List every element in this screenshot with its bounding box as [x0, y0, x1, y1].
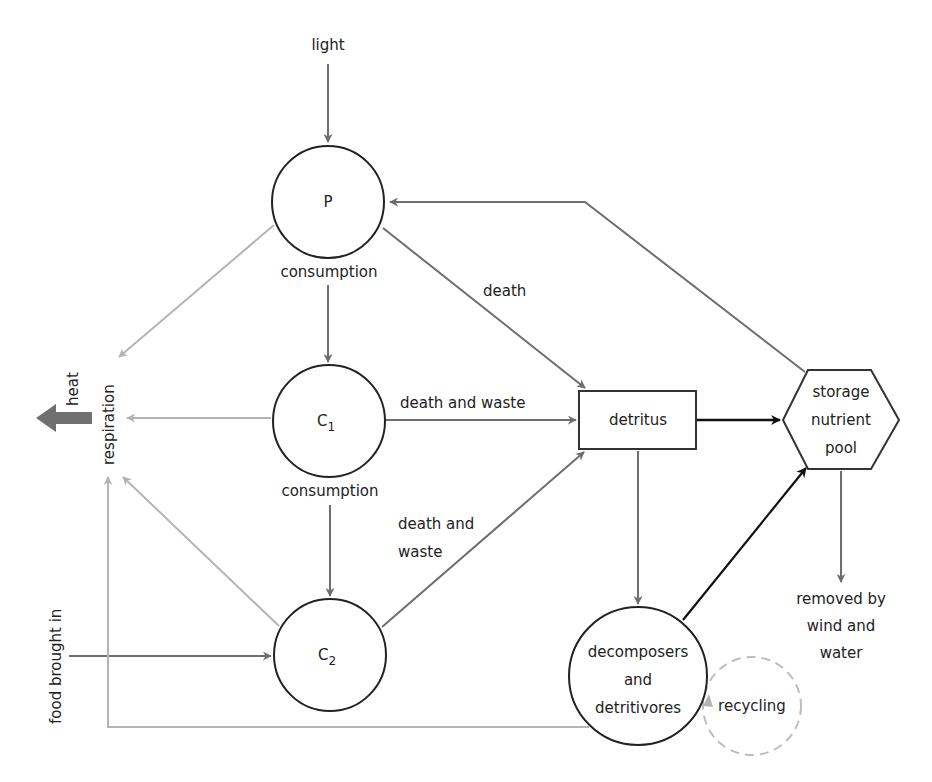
- consumption-label-1: consumption: [280, 263, 377, 281]
- death-and-waste-c1-label: death and waste: [400, 394, 525, 412]
- storage-label-line1: storage: [813, 383, 870, 401]
- arrow-c2-death-waste-to-detritus: [382, 452, 584, 627]
- detritus-label: detritus: [609, 411, 667, 429]
- decomposers-label-line3: detritivores: [595, 699, 681, 717]
- producer-label: P: [323, 193, 332, 211]
- arrow-producer-respiration: [119, 225, 274, 357]
- food-brought-in-label: food brought in: [47, 609, 65, 724]
- respiration-label: respiration: [100, 384, 118, 465]
- arrow-producer-death-to-detritus: [383, 228, 585, 388]
- ecosystem-flow-diagram: P C1 C2 detritus storage nutrient pool d…: [0, 0, 932, 782]
- consumption-label-2: consumption: [281, 482, 378, 500]
- storage-label-line2: nutrient: [811, 411, 871, 429]
- arrow-c2-respiration: [123, 477, 279, 626]
- removed-label-line1: removed by: [796, 590, 886, 608]
- death-and-waste-c2-label-line2: waste: [398, 543, 442, 561]
- recycling-label: recycling: [718, 697, 786, 715]
- death-and-waste-c2-label-line1: death and: [398, 515, 474, 533]
- storage-label-line3: pool: [825, 439, 857, 457]
- decomposers-label-line2: and: [624, 671, 652, 689]
- heat-label: heat: [64, 372, 82, 406]
- decomposers-label-line1: decomposers: [588, 643, 689, 661]
- removed-label-line2: wind and: [807, 617, 875, 635]
- light-label: light: [311, 36, 344, 54]
- heat-arrow-icon: [36, 404, 92, 432]
- arrow-decomposers-to-storage: [683, 468, 806, 620]
- removed-label-line3: water: [820, 644, 864, 662]
- death-label: death: [483, 282, 526, 300]
- arrow-storage-to-producer: [390, 202, 805, 372]
